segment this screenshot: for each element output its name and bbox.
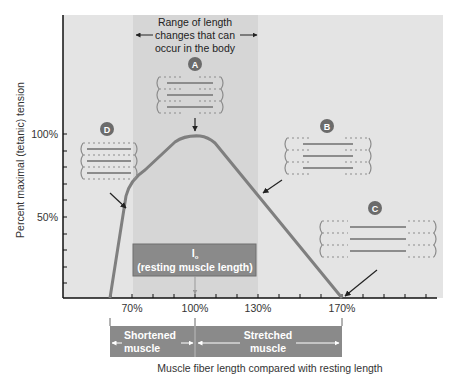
range-label-line3: occur in the body — [155, 42, 236, 54]
y-tick-100: 100% — [31, 128, 58, 140]
range-label-line2: changes that can — [155, 29, 235, 41]
stretched-label-2: muscle — [250, 342, 286, 354]
stretched-label-1: Stretched — [244, 329, 292, 341]
range-label-line1: Range of length — [158, 16, 232, 28]
marker-c-label: C — [372, 204, 379, 214]
shortened-label-2: muscle — [124, 342, 160, 354]
marker-b-label: B — [324, 122, 331, 132]
resting-length-label: (resting muscle length) — [137, 261, 253, 273]
x-tick-100: 100% — [182, 302, 209, 314]
x-tick-130: 130% — [245, 302, 272, 314]
x-tick-170: 170% — [329, 302, 356, 314]
marker-a-label: A — [192, 60, 199, 70]
y-tick-50: 50% — [37, 211, 58, 223]
sarcomere-diagram-d — [81, 143, 137, 179]
x-tick-70: 70% — [121, 302, 142, 314]
shortened-label-1: Shortened — [124, 329, 176, 341]
length-tension-chart: Range of length changes that can occur i… — [0, 0, 455, 379]
y-axis-label: Percent maximal (tetanic) tension — [14, 82, 26, 238]
marker-d-label: D — [104, 125, 111, 135]
x-axis-label: Muscle fiber length compared with restin… — [157, 362, 382, 374]
